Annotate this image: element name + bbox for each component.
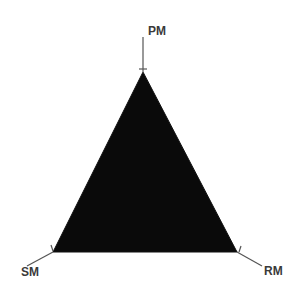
- rm-axis-line: [237, 252, 262, 266]
- ternary-diagram: [0, 0, 305, 303]
- rm-axis-tick: [239, 246, 241, 252]
- sm-axis-tick: [51, 245, 53, 251]
- pm-label: PM: [148, 25, 166, 37]
- sm-label: SM: [21, 266, 39, 278]
- filled-triangle: [53, 72, 237, 252]
- sm-axis-line: [27, 252, 53, 266]
- rm-label: RM: [264, 265, 283, 277]
